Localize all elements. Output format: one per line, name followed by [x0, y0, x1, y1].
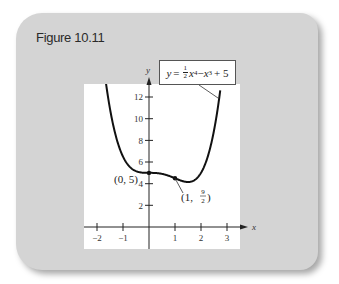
y-tick-label: 6 [139, 157, 144, 167]
eq-fraction: 1 2 [183, 65, 189, 80]
x-tick-label: 1 [173, 233, 178, 243]
x-axis-label: x [251, 222, 256, 232]
equation-leader-line [199, 85, 218, 98]
eq-plus: + 5 [214, 67, 228, 79]
svg-text:9: 9 [201, 188, 205, 196]
point-a-label: (0, 5) [114, 173, 138, 186]
x-tick-label: −1 [118, 233, 128, 243]
svg-text:(1,: (1, [181, 191, 193, 204]
eq-frac-den: 2 [184, 73, 188, 80]
x-tick-label: 2 [199, 233, 204, 243]
y-tick-label: 12 [134, 92, 143, 102]
svg-text:): ) [207, 191, 211, 204]
function-curve [105, 74, 220, 182]
eq-equals: = [173, 67, 179, 79]
y-axis-arrow-icon [147, 77, 152, 85]
y-axis-label: y [145, 65, 150, 75]
y-tick-label: 10 [134, 114, 144, 124]
equation-label: y = 1 2 x4 − x3 + 5 [159, 60, 236, 85]
x-tick-label: −2 [92, 233, 102, 243]
point-b-label: (1, 9 2 ) [181, 188, 211, 205]
x-tick-label: 3 [225, 233, 230, 243]
eq-lhs: y [166, 67, 171, 79]
x-axis-arrow-icon [240, 225, 248, 230]
point-0-5 [147, 171, 151, 175]
y-tick-label: 2 [139, 201, 144, 211]
eq-exp2: 3 [209, 69, 213, 77]
y-tick-label: 8 [139, 136, 144, 146]
function-graph: −2 −1 1 2 3 2 4 6 8 10 12 x y (0, 5) (1,… [0, 0, 339, 284]
y-tick-label: 4 [139, 179, 144, 189]
svg-text:2: 2 [201, 197, 205, 205]
